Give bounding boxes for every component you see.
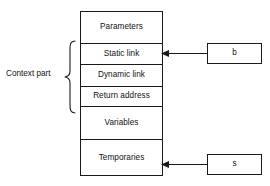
- pointer-box-b: b: [207, 43, 262, 64]
- arrow-b-to-static-link: [160, 49, 209, 58]
- context-part-label: Context part: [6, 70, 51, 78]
- frame-row-temporaries: Temporaries: [81, 139, 162, 177]
- frame-row-variables: Variables: [81, 106, 162, 139]
- frame-row-static-link: Static link: [81, 43, 162, 64]
- activation-record-box: Parameters Static link Dynamic link Retu…: [80, 11, 163, 176]
- frame-row-parameters: Parameters: [81, 12, 162, 43]
- frame-row-label: Parameters: [100, 23, 143, 31]
- context-part-brace-icon: [64, 40, 76, 114]
- pointer-box-label: s: [232, 160, 236, 168]
- pointer-box-s: s: [207, 154, 262, 175]
- frame-row-label: Temporaries: [99, 154, 145, 162]
- pointer-box-label: b: [232, 49, 237, 57]
- frame-row-label: Variables: [105, 119, 139, 127]
- arrow-s-to-temporaries: [160, 160, 209, 169]
- frame-row-label: Static link: [104, 50, 140, 58]
- frame-row-label: Dynamic link: [98, 71, 145, 79]
- frame-row-return-address: Return address: [81, 86, 162, 106]
- frame-row-dynamic-link: Dynamic link: [81, 64, 162, 86]
- frame-row-label: Return address: [93, 92, 150, 100]
- activation-record-diagram: Parameters Static link Dynamic link Retu…: [0, 0, 270, 186]
